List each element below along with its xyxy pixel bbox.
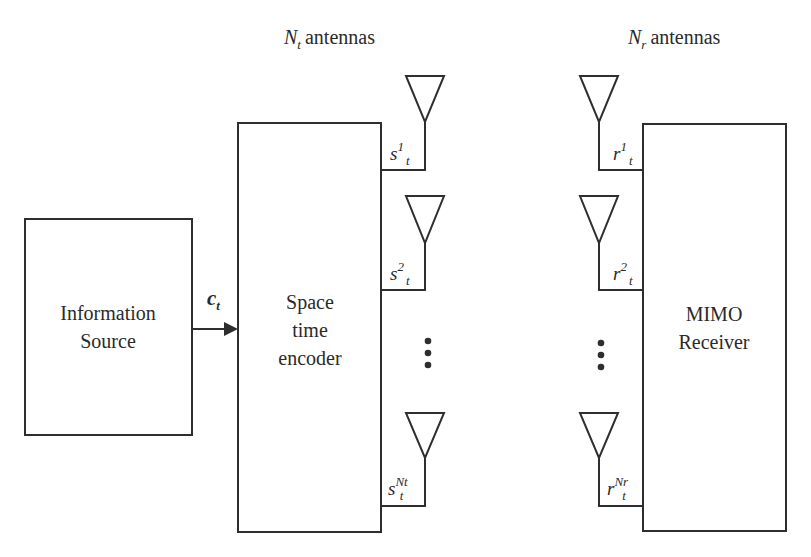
- information-source-label-line1: Information: [60, 302, 156, 324]
- rx-antennas-label: Nrantennas: [627, 26, 721, 52]
- antenna-icon: [580, 413, 618, 458]
- rx-antennas-text: antennas: [650, 26, 720, 48]
- tx-signal-base: s: [388, 478, 395, 499]
- antenna-icon: [406, 413, 444, 458]
- space-time-encoder-block: Space time encoder: [238, 123, 381, 532]
- rx-signal-sub: t: [622, 488, 626, 503]
- receiver-label-line1: MIMO: [686, 303, 743, 325]
- rx-signal-label-2: r2t: [613, 259, 633, 288]
- rx-signal-sup: Nr: [613, 474, 629, 489]
- information-source-label-line2: Source: [80, 330, 136, 352]
- ellipsis-dot: [425, 362, 432, 369]
- tx-antennas-subscript: t: [297, 37, 301, 52]
- ellipsis-dot: [598, 340, 605, 347]
- mimo-system-diagram: Ntantennas Nrantennas Information Source…: [0, 0, 811, 557]
- antenna-icon: [580, 196, 618, 243]
- tx-signal-label-1: s1t: [390, 139, 410, 168]
- tx-antennas-text: antennas: [305, 26, 375, 48]
- tx-signal-base: s: [390, 143, 397, 164]
- signal-arrow: ct: [192, 286, 238, 336]
- rx-signal-sup: 2: [620, 259, 627, 274]
- rx-signal-sup: 1: [620, 139, 627, 154]
- rx-signal-sub: t: [629, 273, 633, 288]
- rx-signal-sub: t: [629, 153, 633, 168]
- encoder-label-line2: time: [292, 319, 328, 341]
- tx-antennas-label: Ntantennas: [283, 26, 375, 52]
- tx-signal-sup: 1: [397, 139, 404, 154]
- tx-antenna-2: s2t: [381, 196, 444, 290]
- tx-antenna-nt: sNtt: [381, 413, 444, 506]
- rx-signal-label-1: r1t: [613, 139, 633, 168]
- tx-signal-sub: t: [400, 488, 404, 503]
- antenna-icon: [580, 76, 618, 122]
- rx-ellipsis: [598, 340, 605, 371]
- tx-ellipsis: [425, 338, 432, 369]
- tx-signal-label-2: s2t: [390, 259, 410, 288]
- information-source-box: [25, 219, 192, 435]
- rx-antenna-nr: rNrt: [580, 413, 643, 506]
- ellipsis-dot: [598, 352, 605, 359]
- tx-signal-label-nt: sNtt: [388, 474, 408, 503]
- encoder-label-line1: Space: [286, 291, 334, 314]
- antenna-icon: [406, 76, 444, 122]
- tx-signal-sub: t: [406, 273, 410, 288]
- rx-signal-label-nr: rNrt: [607, 474, 629, 503]
- rx-antennas-subscript: r: [641, 37, 647, 52]
- mimo-receiver-block: MIMO Receiver: [643, 124, 786, 531]
- antenna-icon: [406, 196, 444, 243]
- ellipsis-dot: [425, 350, 432, 357]
- signal-subscript: t: [216, 298, 220, 313]
- receiver-box: [643, 124, 786, 531]
- tx-signal-sub: t: [406, 153, 410, 168]
- tx-signal-sup: Nt: [394, 474, 408, 489]
- tx-signal-base: s: [390, 263, 397, 284]
- information-source-block: Information Source: [25, 219, 192, 435]
- tx-signal-sup: 2: [397, 259, 404, 274]
- receiver-label-line2: Receiver: [678, 331, 749, 353]
- rx-antenna-2: r2t: [580, 196, 643, 290]
- ellipsis-dot: [598, 364, 605, 371]
- rx-antenna-1: r1t: [580, 76, 643, 170]
- signal-label: ct: [207, 286, 220, 313]
- encoder-label-line3: encoder: [278, 347, 342, 369]
- ellipsis-dot: [425, 338, 432, 345]
- tx-antenna-1: s1t: [381, 76, 444, 170]
- arrow-head-icon: [224, 322, 238, 336]
